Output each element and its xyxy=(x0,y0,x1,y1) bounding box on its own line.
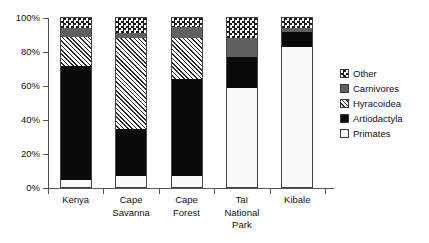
gray-swatch xyxy=(340,84,349,93)
bar-segment-primates[interactable] xyxy=(281,47,313,188)
bar-cape-savanna[interactable] xyxy=(115,18,147,188)
bar-segment-hyracoidea[interactable] xyxy=(115,38,147,128)
bar-segment-primates[interactable] xyxy=(226,88,258,188)
bar-segment-other[interactable] xyxy=(171,18,203,27)
bar-segment-hyracoidea[interactable] xyxy=(171,38,203,79)
plot-area xyxy=(48,18,325,188)
legend-item-label: Primates xyxy=(353,129,390,139)
bar-top-cap xyxy=(281,17,313,18)
x-axis-label-kibale: Kibale xyxy=(254,194,340,207)
bar-segment-carnivores[interactable] xyxy=(281,28,313,31)
y-axis-tick-label: 40% xyxy=(0,115,40,125)
bar-taï-national-park[interactable] xyxy=(226,18,258,188)
bar-segment-other[interactable] xyxy=(60,18,92,28)
legend-item-carnivores[interactable]: Carnivores xyxy=(340,81,429,96)
bar-segment-artiodactyla[interactable] xyxy=(60,66,92,180)
x-axis-label-line: Park xyxy=(199,219,285,232)
bar-kenya[interactable] xyxy=(60,18,92,188)
bar-top-cap xyxy=(226,17,258,18)
bar-top-cap xyxy=(171,17,203,18)
legend-item-primates[interactable]: Primates xyxy=(340,126,429,141)
checkerboard-swatch xyxy=(340,69,349,78)
y-axis-tick-label: 0% xyxy=(0,183,40,193)
bar-kibale[interactable] xyxy=(281,18,313,188)
x-axis-label-line: National xyxy=(199,207,285,220)
y-axis-tick-label: 20% xyxy=(0,149,40,159)
y-axis-tick-label: 100% xyxy=(0,13,40,23)
x-axis-line xyxy=(48,188,334,189)
bar-segment-artiodactyla[interactable] xyxy=(171,79,203,176)
bar-segment-artiodactyla[interactable] xyxy=(281,32,313,47)
legend-item-label: Carnivores xyxy=(353,84,399,94)
bar-segment-artiodactyla[interactable] xyxy=(226,57,258,88)
white-swatch xyxy=(340,129,349,138)
black-swatch xyxy=(340,114,349,123)
bar-segment-carnivores[interactable] xyxy=(60,28,92,37)
bar-segment-hyracoidea[interactable] xyxy=(60,37,92,66)
legend-item-hyracoidea[interactable]: Hyracoidea xyxy=(340,96,429,111)
bar-segment-primates[interactable] xyxy=(115,176,147,188)
stacked-bar-chart: 0%20%40%60%80%100% KenyaCapeSavannaCapeF… xyxy=(0,0,429,243)
legend-item-artiodactyla[interactable]: Artiodactyla xyxy=(340,111,429,126)
bar-segment-other[interactable] xyxy=(226,18,258,38)
y-axis-tick-label: 60% xyxy=(0,81,40,91)
bar-segment-carnivores[interactable] xyxy=(115,33,147,38)
bar-segment-primates[interactable] xyxy=(171,176,203,188)
bar-segment-artiodactyla[interactable] xyxy=(115,129,147,177)
y-axis-tick-label: 80% xyxy=(0,47,40,57)
legend-item-label: Artiodactyla xyxy=(353,114,403,124)
legend-item-label: Hyracoidea xyxy=(353,99,401,109)
legend-item-other[interactable]: Other xyxy=(340,66,429,81)
x-axis-label-line: Kibale xyxy=(254,194,340,207)
bar-segment-other[interactable] xyxy=(115,18,147,33)
legend-item-label: Other xyxy=(353,69,377,79)
bar-segment-other[interactable] xyxy=(281,18,313,28)
bar-cape-forest[interactable] xyxy=(171,18,203,188)
hatch-swatch xyxy=(340,99,349,108)
bar-top-cap xyxy=(115,17,147,18)
bar-segment-carnivores[interactable] xyxy=(226,38,258,57)
bar-top-cap xyxy=(60,17,92,18)
chart-legend: OtherCarnivoresHyracoideaArtiodactylaPri… xyxy=(340,66,429,141)
bar-segment-carnivores[interactable] xyxy=(171,27,203,39)
bar-segment-primates[interactable] xyxy=(60,180,92,189)
